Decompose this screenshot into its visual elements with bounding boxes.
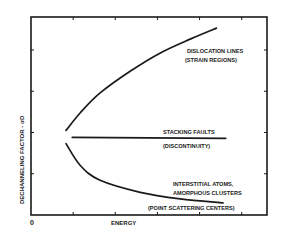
series-label-interstitial-line2: AMORPHOUS CLUSTERS [173,190,242,196]
series-label-dislocation-line1: DISLOCATION LINES [187,48,243,54]
chart: 0 ENERGY DECHANNELING FACTOR - σD DISLOC… [0,0,282,237]
stacking-faults-line [72,137,225,138]
dislocation-lines-curve [66,28,216,130]
series-label-interstitial-line1: INTERSTITIAL ATOMS, [173,181,234,187]
x-origin-label: 0 [30,219,34,226]
x-axis-label: ENERGY [111,220,136,226]
series-label-stacking-line2: (DISCONTINUITY) [163,143,210,149]
series-label-stacking-line1: STACKING FAULTS [163,129,215,135]
series-group [66,28,226,203]
series-label-dislocation-line2: (STRAIN REGIONS) [185,57,237,63]
y-axis-label: DECHANNELING FACTOR - σD [19,115,25,204]
series-label-interstitial-line3: (POINT SCATTERING CENTERS) [148,205,235,211]
